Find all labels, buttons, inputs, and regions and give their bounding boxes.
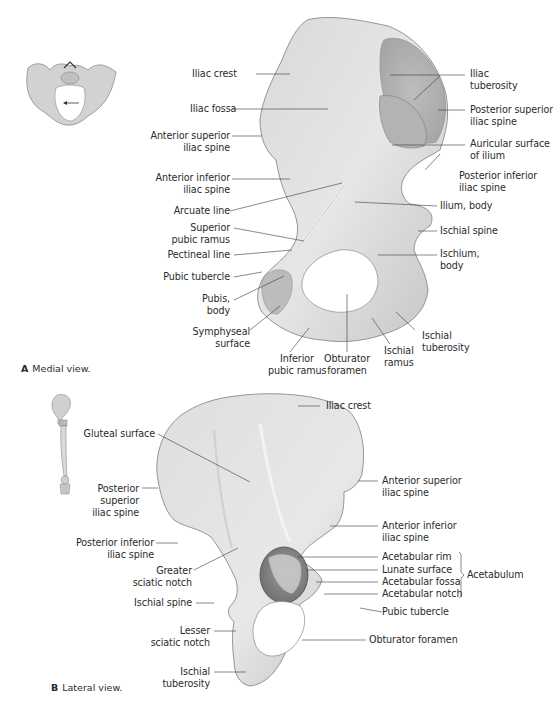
- label-iliac-tuberosity: Iliac tuberosity: [470, 68, 518, 92]
- hip-bone-medial: [258, 18, 448, 342]
- label-posterior-inferior-iliac-spine: Posterior inferior iliac spine: [459, 170, 537, 194]
- label-acetabular-notch: Acetabular notch: [382, 588, 462, 600]
- label-arcuate-line: Arcuate line: [174, 205, 230, 217]
- label-symphyseal-surface: Symphyseal surface: [193, 326, 250, 350]
- panel-letter-a: A: [21, 363, 28, 374]
- label-anterior-inferior-iliac-spine: Anterior inferior iliac spine: [155, 172, 230, 196]
- label-pubic-tubercle-lateral: Pubic tubercle: [382, 606, 449, 618]
- label-ischial-ramus: Ischial ramus: [384, 345, 414, 369]
- label-anterior-inferior-iliac-spine-lateral: Anterior inferior iliac spine: [382, 520, 457, 544]
- label-superior-pubic-ramus: Superior pubic ramus: [172, 222, 230, 246]
- label-gluteal-surface: Gluteal surface: [84, 428, 155, 440]
- label-ischial-spine-lateral: Ischial spine: [134, 597, 192, 609]
- label-ischium-body: Ischium, body: [440, 248, 480, 272]
- label-pubic-tubercle: Pubic tubercle: [163, 271, 230, 283]
- label-pectineal-line: Pectineal line: [167, 249, 230, 261]
- label-acetabulum-group: Acetabulum: [467, 569, 523, 581]
- label-iliac-fossa: Iliac fossa: [190, 103, 236, 115]
- label-lunate-surface: Lunate surface: [382, 564, 452, 576]
- label-auricular-surface: Auricular surface of ilium: [470, 138, 550, 162]
- panel-letter-b: B: [51, 682, 58, 693]
- label-posterior-superior-iliac-spine-lateral: Posterior superior iliac spine: [92, 483, 139, 519]
- caption-lateral-view: BLateral view.: [51, 682, 122, 693]
- label-ischial-tuberosity: Ischial tuberosity: [422, 330, 470, 354]
- label-lesser-sciatic-notch: Lesser sciatic notch: [151, 625, 210, 649]
- label-obturator-foramen: Obturator foramen: [321, 353, 373, 377]
- label-anterior-superior-iliac-spine: Anterior superior iliac spine: [150, 130, 230, 154]
- label-acetabular-rim: Acetabular rim: [382, 551, 451, 563]
- label-ischial-spine: Ischial spine: [440, 225, 498, 237]
- label-acetabular-fossa: Acetabular fossa: [382, 576, 460, 588]
- label-ilium-body: Ilium, body: [440, 200, 492, 212]
- pelvis-thumbnail: [27, 62, 116, 125]
- label-iliac-crest: Iliac crest: [192, 68, 237, 80]
- label-pubis-body: Pubis, body: [202, 293, 230, 317]
- caption-medial-view: AMedial view.: [21, 363, 91, 374]
- leg-thumbnail: [52, 394, 70, 494]
- label-anterior-superior-iliac-spine-lateral: Anterior superior iliac spine: [382, 475, 462, 499]
- label-iliac-crest-lateral: Iliac crest: [326, 400, 371, 412]
- label-posterior-inferior-iliac-spine-lateral: Posterior inferior iliac spine: [76, 537, 154, 561]
- label-greater-sciatic-notch: Greater sciatic notch: [133, 565, 192, 589]
- label-inferior-pubic-ramus: Inferior pubic ramus: [268, 353, 326, 377]
- label-obturator-foramen-lateral: Obturator foramen: [369, 634, 458, 646]
- label-posterior-superior-iliac-spine: Posterior superior iliac spine: [470, 104, 553, 128]
- label-ischial-tuberosity-lateral: Ischial tuberosity: [162, 666, 210, 690]
